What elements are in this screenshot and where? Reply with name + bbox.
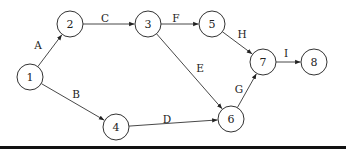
node-label: 3 xyxy=(145,18,152,31)
node-4: 4 xyxy=(103,114,129,140)
nodes-layer: 12345678 xyxy=(17,11,327,140)
network-diagram: ABCDEFGHI 12345678 xyxy=(0,0,346,150)
edge-g: G xyxy=(235,74,257,108)
edge-b: B xyxy=(41,84,104,121)
edge-label: F xyxy=(172,12,179,24)
node-2: 2 xyxy=(57,11,83,37)
node-label: 6 xyxy=(228,113,235,126)
edge-a: A xyxy=(33,35,62,67)
arrow-line xyxy=(157,34,223,109)
node-label: 8 xyxy=(311,56,318,69)
edge-label: A xyxy=(33,39,42,51)
node-label: 1 xyxy=(27,71,34,84)
edge-label: B xyxy=(72,88,80,100)
node-label: 4 xyxy=(113,121,120,134)
edge-d: D xyxy=(129,113,218,126)
node-5: 5 xyxy=(199,11,225,37)
edge-h: H xyxy=(222,28,252,54)
node-label: 5 xyxy=(209,18,216,31)
node-8: 8 xyxy=(301,49,327,75)
edge-label: C xyxy=(101,12,109,24)
edge-i: I xyxy=(276,47,301,62)
node-1: 1 xyxy=(17,64,43,90)
node-label: 2 xyxy=(67,18,74,31)
edge-c: C xyxy=(83,12,135,24)
edge-label: H xyxy=(237,28,246,40)
node-6: 6 xyxy=(218,106,244,132)
bottom-rule xyxy=(0,146,346,149)
edge-f: F xyxy=(161,12,199,24)
edge-label: E xyxy=(196,62,204,74)
node-7: 7 xyxy=(250,49,276,75)
edge-label: I xyxy=(284,47,288,59)
edge-e: E xyxy=(157,34,223,109)
edge-label: G xyxy=(235,83,243,95)
arrow-line xyxy=(129,120,218,126)
edge-label: D xyxy=(163,113,171,125)
node-label: 7 xyxy=(260,56,267,69)
node-3: 3 xyxy=(135,11,161,37)
